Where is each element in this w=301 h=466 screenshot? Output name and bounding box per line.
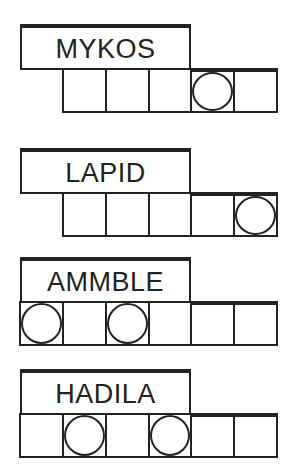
answer-cell[interactable] (148, 301, 192, 346)
answer-cell[interactable] (233, 413, 278, 458)
answer-cell[interactable] (148, 68, 192, 113)
answer-cell[interactable] (105, 68, 150, 113)
answer-cell[interactable] (148, 413, 192, 458)
scrambled-word-box: LAPID (20, 148, 191, 194)
answer-cell[interactable] (62, 413, 107, 458)
answer-cell[interactable] (190, 413, 235, 458)
circled-letter-marker-icon (235, 196, 276, 235)
scrambled-word: HADILA (55, 377, 156, 410)
answer-cell[interactable] (105, 192, 150, 237)
scrambled-word: LAPID (65, 156, 146, 189)
circled-letter-marker-icon (21, 303, 62, 344)
scrambled-word-box: MYKOS (20, 24, 191, 70)
circled-letter-marker-icon (192, 72, 233, 111)
circled-letter-marker-icon (107, 303, 148, 344)
circled-letter-marker-icon (64, 415, 105, 456)
answer-cell[interactable] (148, 192, 192, 237)
scrambled-word: AMMBLE (47, 265, 164, 298)
answer-cell[interactable] (62, 192, 107, 237)
answer-cell[interactable] (62, 68, 107, 113)
answer-cell[interactable] (19, 301, 64, 346)
scrambled-word: MYKOS (55, 32, 155, 65)
circled-letter-marker-icon (150, 415, 190, 456)
answer-cell[interactable] (105, 301, 150, 346)
scrambled-word-box: AMMBLE (20, 257, 191, 303)
answer-cell[interactable] (19, 413, 64, 458)
answer-cell[interactable] (105, 413, 150, 458)
answer-cell[interactable] (233, 192, 278, 237)
answer-cell[interactable] (190, 192, 235, 237)
answer-cell[interactable] (190, 301, 235, 346)
answer-cell[interactable] (233, 68, 278, 113)
answer-cell[interactable] (233, 301, 278, 346)
answer-cell[interactable] (190, 68, 235, 113)
scrambled-word-box: HADILA (20, 369, 191, 415)
answer-cell[interactable] (62, 301, 107, 346)
